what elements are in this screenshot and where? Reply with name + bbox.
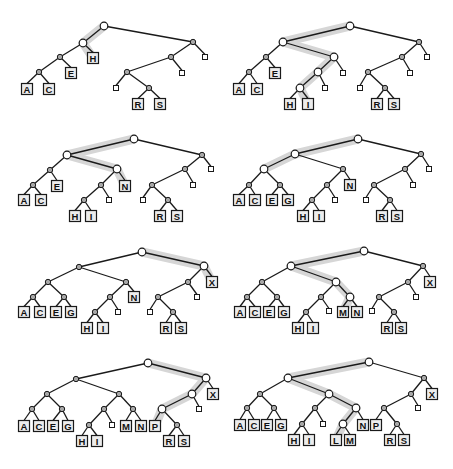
key-box-I: I — [304, 435, 315, 447]
internal-node — [303, 309, 308, 314]
internal-node — [73, 376, 78, 381]
internal-node — [146, 85, 151, 90]
path-node — [279, 38, 287, 46]
empty-leaf — [116, 310, 121, 315]
key-label: N — [122, 181, 129, 192]
internal-node — [246, 69, 251, 74]
key-box-N: N — [129, 292, 140, 304]
empty-leaf — [341, 71, 346, 76]
path-node — [354, 135, 362, 143]
key-label: P — [373, 420, 380, 431]
key-label: E — [53, 307, 59, 318]
key-label: C — [252, 195, 259, 206]
key-label: X — [209, 277, 216, 288]
internal-node — [271, 405, 276, 410]
key-box-C: C — [249, 420, 260, 432]
path-node — [346, 22, 354, 30]
key-label: R — [157, 211, 164, 222]
key-label: A — [236, 195, 243, 206]
internal-node — [190, 39, 195, 44]
key-box-R: R — [385, 435, 396, 447]
empty-leaf — [114, 86, 119, 91]
internal-node — [155, 294, 160, 299]
internal-node — [199, 152, 204, 157]
path-node — [130, 135, 138, 143]
key-label: M — [122, 421, 130, 432]
key-label: H — [295, 323, 302, 334]
internal-node — [116, 391, 121, 396]
empty-leaf — [110, 423, 115, 428]
key-label: G — [284, 195, 291, 206]
internal-node — [168, 54, 173, 59]
internal-node — [124, 69, 129, 74]
internal-node — [318, 294, 323, 299]
empty-leaf — [195, 295, 200, 300]
internal-node — [123, 279, 128, 284]
internal-node — [185, 279, 190, 284]
key-label: A — [21, 307, 28, 318]
key-box-R: R — [164, 436, 175, 448]
path-node — [63, 151, 71, 159]
empty-leaf — [148, 310, 153, 315]
key-label: H — [287, 99, 294, 110]
internal-node — [418, 151, 423, 156]
internal-node — [92, 309, 97, 314]
key-box-S: S — [389, 99, 400, 111]
empty-leaf — [416, 406, 421, 411]
key-box-S: S — [179, 436, 190, 448]
internal-node — [277, 182, 282, 187]
key-box-H: H — [298, 211, 309, 223]
empty-leaf — [323, 86, 328, 91]
key-box-H: H — [289, 435, 300, 447]
internal-node — [257, 391, 262, 396]
key-label: G — [67, 307, 74, 318]
internal-node — [309, 197, 314, 202]
path-node — [325, 390, 333, 398]
key-box-A: A — [19, 195, 30, 207]
internal-node — [30, 294, 35, 299]
key-label: N — [138, 421, 145, 432]
internal-node — [391, 309, 396, 314]
internal-node — [381, 405, 386, 410]
key-box-N: N — [345, 180, 356, 192]
internal-node — [324, 182, 329, 187]
key-label: N — [347, 180, 354, 191]
internal-node — [371, 182, 376, 187]
key-box-C: C — [34, 421, 45, 433]
key-label: X — [210, 389, 217, 400]
internal-node — [101, 406, 106, 411]
key-box-I: I — [92, 436, 103, 448]
key-box-X: X — [207, 277, 218, 289]
key-box-E: E — [52, 181, 63, 193]
path-node — [79, 39, 87, 47]
key-box-I: I — [308, 323, 319, 335]
path-node — [144, 359, 152, 367]
internal-node — [45, 279, 50, 284]
key-label: A — [237, 307, 244, 318]
internal-node — [421, 375, 426, 380]
key-box-P: P — [371, 420, 382, 432]
empty-leaf — [411, 183, 416, 188]
internal-node — [149, 182, 154, 187]
key-label: I — [308, 435, 311, 446]
key-box-A: A — [235, 420, 246, 432]
key-box-M: M — [338, 307, 349, 319]
key-box-R: R — [155, 211, 166, 223]
path-node — [284, 374, 292, 382]
internal-node — [394, 421, 399, 426]
internal-node — [244, 405, 249, 410]
internal-node — [174, 422, 179, 427]
key-label: S — [394, 211, 400, 222]
tree-edges — [24, 26, 432, 436]
internal-node — [61, 294, 66, 299]
key-label: S — [157, 99, 163, 110]
path-node — [202, 374, 210, 382]
key-label: C — [36, 421, 43, 432]
key-label: I — [90, 211, 93, 222]
internal-node — [86, 422, 91, 427]
empty-leaf — [197, 407, 202, 412]
key-label: L — [333, 435, 339, 446]
internal-node — [263, 54, 268, 59]
path-node — [352, 404, 360, 412]
key-box-H: H — [293, 323, 304, 335]
